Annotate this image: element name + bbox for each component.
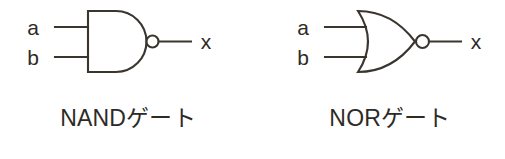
nand-output-x-label: x bbox=[201, 30, 212, 53]
nor-gate-group: a b x NORゲート bbox=[297, 11, 482, 131]
nor-gate-caption: NORゲート bbox=[329, 105, 450, 131]
nor-gate-body bbox=[358, 11, 415, 72]
nor-input-a-label: a bbox=[297, 16, 309, 39]
nor-output-x-label: x bbox=[471, 30, 482, 53]
nor-input-b-label: b bbox=[297, 46, 309, 69]
logic-gate-figure: a b x NANDゲート a b x NORゲート bbox=[0, 0, 505, 159]
nand-input-a-label: a bbox=[27, 16, 39, 39]
logic-gate-diagram: a b x NANDゲート a b x NORゲート bbox=[0, 0, 505, 159]
nand-gate-group: a b x NANDゲート bbox=[27, 11, 212, 131]
nand-input-b-label: b bbox=[27, 46, 39, 69]
nand-inversion-bubble-icon bbox=[147, 36, 159, 48]
nor-inversion-bubble-icon bbox=[416, 35, 429, 48]
nand-gate-body bbox=[88, 11, 146, 72]
nand-gate-caption: NANDゲート bbox=[60, 105, 196, 131]
